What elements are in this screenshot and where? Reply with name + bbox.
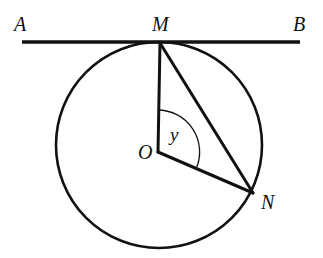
segment-om: [158, 43, 160, 152]
point-label-o: O: [138, 142, 152, 162]
segment-mn: [160, 43, 253, 193]
angle-arc-mon: [158, 110, 200, 168]
point-label-n: N: [261, 192, 274, 212]
point-label-b: B: [293, 14, 305, 34]
geometry-canvas: [0, 0, 323, 258]
angle-label-y: y: [170, 125, 178, 144]
point-label-a: A: [14, 14, 26, 34]
point-label-m: M: [152, 14, 169, 34]
geometry-figure: A B M N O y: [0, 0, 323, 258]
